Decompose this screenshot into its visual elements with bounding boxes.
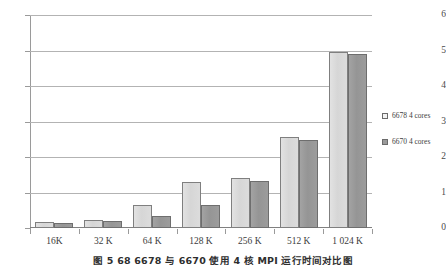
figure-caption-text: 图 5 68 6678 与 6670 使用 4 核 MPI 运行时间对比图 — [93, 255, 353, 265]
bar — [299, 140, 318, 228]
x-tick-mark — [177, 229, 178, 234]
bar — [348, 54, 367, 228]
gridline — [30, 122, 372, 123]
x-tick-mark — [225, 229, 226, 234]
y-tick-label: 4 — [424, 81, 446, 90]
x-tick-mark — [274, 229, 275, 234]
x-tick-label: 128 K — [177, 236, 226, 246]
y-tick-mark — [25, 122, 30, 123]
y-tick-label: 6 — [424, 10, 446, 19]
legend-item-label: 6670 4 cores — [392, 138, 430, 146]
x-tick-label: 16K — [30, 236, 79, 246]
bar — [201, 205, 220, 228]
legend-item: 6678 4 cores — [382, 112, 446, 120]
y-tick-mark — [25, 51, 30, 52]
x-tick-label: 64 K — [128, 236, 177, 246]
gridline — [30, 51, 372, 52]
bar — [35, 222, 54, 228]
y-tick-mark — [25, 86, 30, 87]
bar — [250, 181, 269, 228]
figure-container: 0123456 16K32 K64 K128 K256 K512 K1 024 … — [0, 0, 446, 265]
x-tick-label: 512 K — [274, 236, 323, 246]
x-tick-label: 256 K — [225, 236, 274, 246]
x-tick-mark — [30, 229, 31, 234]
legend-item-label: 6678 4 cores — [392, 112, 430, 120]
plot-area — [30, 15, 372, 228]
bar — [103, 221, 122, 228]
bar — [152, 216, 171, 228]
gridline — [30, 86, 372, 87]
y-tick-label: 5 — [424, 46, 446, 55]
gridline — [30, 157, 372, 158]
x-axis-labels: 16K32 K64 K128 K256 K512 K1 024 K — [30, 229, 372, 248]
figure-caption: 图 5 68 6678 与 6670 使用 4 核 MPI 运行时间对比图 — [0, 250, 446, 265]
legend-item: 6670 4 cores — [382, 138, 446, 146]
bar — [54, 223, 73, 228]
y-tick-mark — [25, 157, 30, 158]
bar — [280, 137, 299, 228]
bar — [231, 178, 250, 228]
bar — [84, 220, 103, 228]
bar — [182, 182, 201, 228]
y-tick-mark — [25, 15, 30, 16]
bar-chart: 0123456 16K32 K64 K128 K256 K512 K1 024 … — [0, 0, 446, 248]
gridline — [30, 15, 372, 16]
x-tick-mark — [372, 229, 373, 234]
x-tick-mark — [323, 229, 324, 234]
x-tick-label: 32 K — [79, 236, 128, 246]
y-tick-label: 0 — [424, 223, 446, 232]
gridline — [30, 193, 372, 194]
bar — [133, 205, 152, 228]
bar — [329, 52, 348, 228]
y-tick-label: 1 — [424, 188, 446, 197]
y-tick-mark — [25, 193, 30, 194]
legend-swatch-icon — [382, 139, 388, 145]
x-tick-mark — [128, 229, 129, 234]
x-tick-label: 1 024 K — [323, 236, 372, 246]
x-tick-mark — [79, 229, 80, 234]
legend-swatch-icon — [382, 113, 388, 119]
chart-legend: 6678 4 cores 6670 4 cores — [382, 112, 446, 164]
